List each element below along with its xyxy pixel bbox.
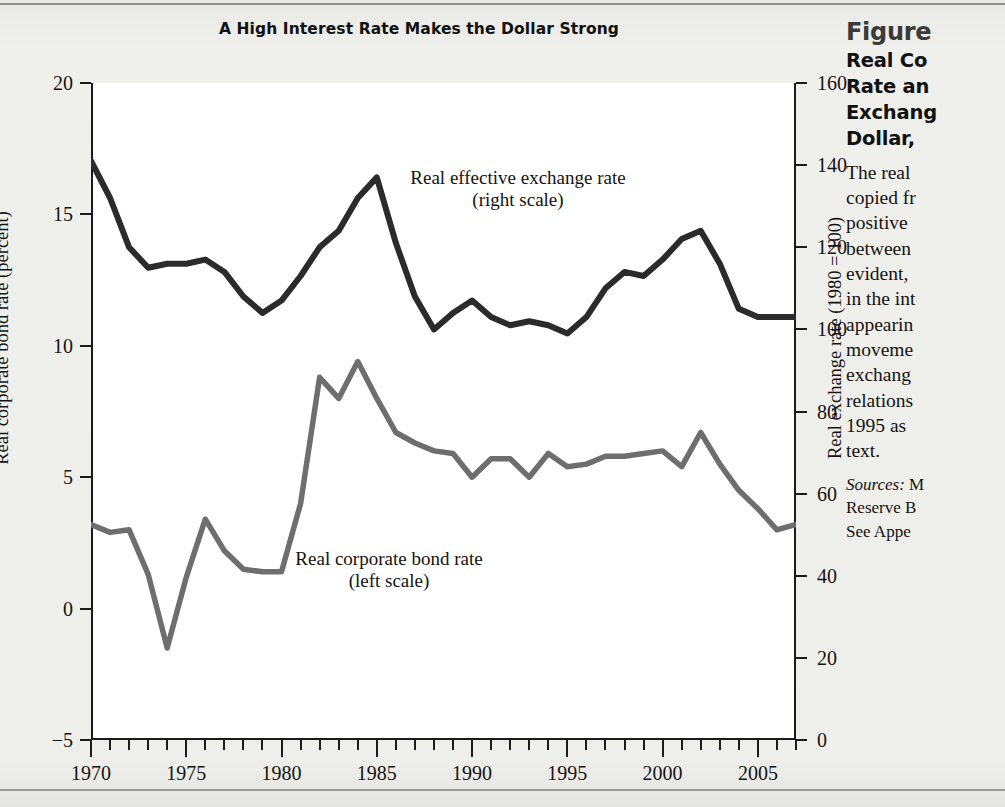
chart-title: A High Interest Rate Makes the Dollar St…: [0, 20, 838, 38]
x-axis-minor-tick: [204, 740, 206, 750]
x-axis-minor-tick: [128, 740, 130, 750]
x-axis-tick-label: 1970: [71, 762, 111, 785]
left-axis-tick-label: 5: [13, 466, 73, 489]
x-axis-tick-label: 1990: [452, 762, 492, 785]
x-axis-major-tick: [90, 740, 92, 757]
right-axis-tick: [796, 82, 807, 84]
caption-figure-number: Figure: [846, 18, 1005, 46]
caption-body-line: moveme: [846, 337, 1005, 362]
figure-chart: A High Interest Rate Makes the Dollar St…: [0, 8, 838, 786]
right-axis-tick: [796, 246, 807, 248]
x-axis-minor-tick: [547, 740, 549, 750]
x-axis-minor-tick: [223, 740, 225, 750]
figure-caption: Figure Real CoRate anExchangDollar, The …: [846, 8, 1005, 786]
caption-body-line: appearin: [846, 312, 1005, 337]
caption-sources: Sources: MReserve BSee Appe: [846, 473, 1005, 544]
bond-rate-series-label-line2: (left scale): [274, 570, 504, 592]
right-axis-tick: [796, 493, 807, 495]
page-background: A High Interest Rate Makes the Dollar St…: [0, 0, 1005, 807]
right-axis-tick: [796, 411, 807, 413]
caption-body-line: between: [846, 236, 1005, 261]
caption-title: Real CoRate anExchangDollar,: [846, 48, 1005, 153]
x-axis-minor-tick: [776, 740, 778, 750]
bond-rate-series-label-line1: Real corporate bond rate: [274, 548, 504, 570]
exchange-rate-series-label-line2: (right scale): [393, 189, 643, 211]
caption-body-line: evident,: [846, 261, 1005, 286]
caption-body-line: in the int: [846, 286, 1005, 311]
caption-sources-line: See Appe: [846, 520, 1005, 544]
x-axis-minor-tick: [166, 740, 168, 750]
x-axis-minor-tick: [109, 740, 111, 750]
x-axis-minor-tick: [433, 740, 435, 750]
exchange-rate-series-label-line1: Real effective exchange rate: [393, 167, 643, 189]
caption-title-line: Dollar,: [846, 126, 1005, 152]
x-axis-tick-label: 1995: [547, 762, 587, 785]
x-axis-tick-label: 2005: [738, 762, 778, 785]
x-axis-major-tick: [281, 740, 283, 757]
x-axis-tick-label: 1980: [262, 762, 302, 785]
x-axis-minor-tick: [452, 740, 454, 750]
x-axis-tick-label: 2000: [643, 762, 683, 785]
x-axis-minor-tick: [585, 740, 587, 750]
right-axis-tick: [796, 575, 807, 577]
caption-body-line: 1995 as: [846, 413, 1005, 438]
left-axis-tick: [80, 82, 91, 84]
left-axis-title: Real corporate bond rate (percent): [0, 211, 13, 465]
x-axis-minor-tick: [681, 740, 683, 750]
right-axis-tick: [796, 328, 807, 330]
x-axis-minor-tick: [490, 740, 492, 750]
caption-body-line: relations: [846, 388, 1005, 413]
x-axis-minor-tick: [147, 740, 149, 750]
caption-sources-line: Reserve B: [846, 496, 1005, 520]
x-axis-minor-tick: [300, 740, 302, 750]
caption-body-line: exchang: [846, 362, 1005, 387]
caption-title-line: Rate an: [846, 74, 1005, 100]
x-axis-minor-tick: [528, 740, 530, 750]
bottom-divider: [0, 789, 1005, 791]
x-axis-minor-tick: [624, 740, 626, 750]
plot-area: Real effective exchange rate (right scal…: [91, 83, 796, 740]
x-axis-minor-tick: [719, 740, 721, 750]
right-axis-tick: [796, 164, 807, 166]
x-axis-major-tick: [566, 740, 568, 757]
left-axis-tick-label: 15: [13, 203, 73, 226]
caption-body-line: The real: [846, 160, 1005, 185]
x-axis-minor-tick: [604, 740, 606, 750]
right-axis-tick: [796, 739, 807, 741]
x-axis-major-tick: [376, 740, 378, 757]
x-axis-major-tick: [471, 740, 473, 757]
x-axis-minor-tick: [261, 740, 263, 750]
left-axis-tick-label: −5: [13, 729, 73, 752]
x-axis-minor-tick: [700, 740, 702, 750]
caption-body-line: text.: [846, 438, 1005, 463]
caption-title-line: Exchang: [846, 100, 1005, 126]
x-axis-major-tick: [185, 740, 187, 757]
top-divider: [0, 3, 1005, 5]
x-axis-minor-tick: [319, 740, 321, 750]
left-axis-tick: [80, 345, 91, 347]
caption-body-line: copied fr: [846, 185, 1005, 210]
left-axis-tick: [80, 213, 91, 215]
x-axis-minor-tick: [795, 740, 797, 750]
x-axis-major-tick: [757, 740, 759, 757]
x-axis-tick-label: 1985: [357, 762, 397, 785]
bond-rate-series-label: Real corporate bond rate (left scale): [274, 548, 504, 593]
x-axis-minor-tick: [395, 740, 397, 750]
caption-body-line: positive: [846, 210, 1005, 235]
x-axis-minor-tick: [357, 740, 359, 750]
caption-title-line: Real Co: [846, 48, 1005, 74]
x-axis-minor-tick: [414, 740, 416, 750]
left-axis-tick-label: 20: [13, 72, 73, 95]
x-axis-minor-tick: [738, 740, 740, 750]
right-axis-tick: [796, 657, 807, 659]
x-axis-minor-tick: [242, 740, 244, 750]
exchange-rate-series-label: Real effective exchange rate (right scal…: [393, 167, 643, 212]
caption-sources-line: Sources: M: [846, 473, 1005, 497]
caption-body: The realcopied frpositivebetweenevident,…: [846, 160, 1005, 464]
left-axis-tick-label: 0: [13, 597, 73, 620]
x-axis-minor-tick: [338, 740, 340, 750]
left-axis-tick: [80, 476, 91, 478]
x-axis-tick-label: 1975: [166, 762, 206, 785]
left-axis-tick: [80, 608, 91, 610]
caption-sources-label: Sources:: [846, 475, 905, 494]
